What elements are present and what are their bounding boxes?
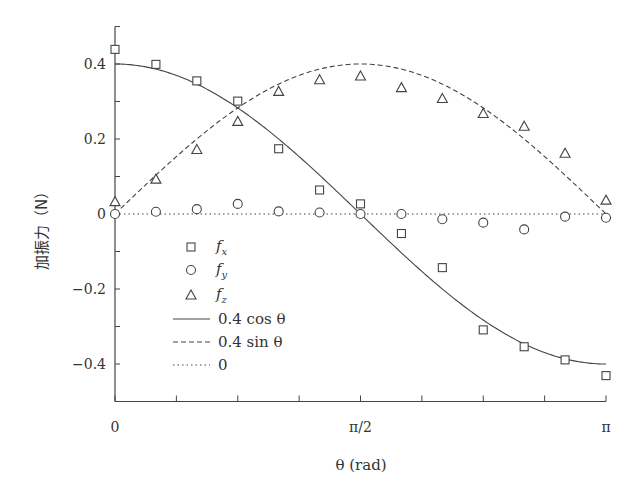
- legend-marker-triangle: [186, 290, 196, 299]
- data-point-square: [193, 77, 201, 85]
- y-tick-label: −0.4: [72, 356, 106, 372]
- data-point-square: [111, 45, 119, 53]
- data-point-triangle: [478, 109, 488, 118]
- y-tick-label: −0.2: [72, 281, 106, 297]
- data-point-circle: [233, 199, 242, 208]
- chart: 0.40.20−0.2−0.40π/2π fxfyfz0.4 cos θ0.4 …: [0, 0, 643, 503]
- data-point-square: [152, 60, 160, 68]
- data-point-square: [479, 326, 487, 334]
- legend-marker-square: [187, 243, 195, 251]
- axes: 0.40.20−0.2−0.40π/2π: [72, 27, 611, 435]
- data-point-square: [234, 97, 242, 105]
- data-point-circle: [315, 208, 324, 217]
- x-tick-label: π: [601, 419, 610, 435]
- data-point-triangle: [192, 145, 202, 154]
- y-tick-label: 0.2: [84, 131, 106, 147]
- data-point-square: [275, 145, 283, 153]
- data-point-triangle: [396, 83, 406, 92]
- legend-marker-circle: [187, 266, 196, 275]
- data-point-triangle: [315, 75, 325, 84]
- data-point-circle: [356, 210, 365, 219]
- data-point-square: [520, 343, 528, 351]
- legend-label: fx: [215, 237, 228, 257]
- data-point-square: [357, 200, 365, 208]
- x-tick-label: π/2: [349, 419, 372, 435]
- data-point-circle: [111, 210, 120, 219]
- data-point-triangle: [356, 71, 366, 80]
- data-point-square: [438, 264, 446, 272]
- legend-label: 0: [218, 356, 228, 374]
- data-point-triangle: [274, 86, 284, 95]
- x-axis-title: θ (rad): [335, 456, 386, 474]
- data-point-square: [397, 230, 405, 238]
- y-tick-label: 0.4: [84, 56, 106, 72]
- data-point-circle: [397, 210, 406, 219]
- legend: fxfyfz0.4 cos θ0.4 sin θ0: [173, 237, 286, 374]
- data-point-circle: [479, 218, 488, 227]
- data-point-circle: [602, 213, 611, 222]
- data-point-square: [561, 356, 569, 364]
- legend-label: 0.4 sin θ: [218, 333, 283, 351]
- curve-dashed: [115, 64, 606, 214]
- legend-label: fy: [215, 260, 228, 280]
- data-point-circle: [520, 225, 529, 234]
- y-tick-label: 0: [97, 206, 106, 222]
- y-axis-title: 加振力（N）: [33, 184, 51, 270]
- data-point-triangle: [560, 148, 570, 157]
- data-point-circle: [561, 212, 570, 221]
- data-point-triangle: [233, 116, 243, 125]
- data-point-triangle: [519, 121, 529, 130]
- x-tick-label: 0: [111, 419, 120, 435]
- legend-label: fz: [215, 285, 228, 305]
- data-points: [110, 45, 611, 379]
- data-point-circle: [274, 207, 283, 216]
- data-point-circle: [151, 207, 160, 216]
- legend-label: 0.4 cos θ: [218, 310, 286, 328]
- data-point-triangle: [110, 197, 120, 206]
- data-point-square: [316, 186, 324, 194]
- data-point-square: [602, 372, 610, 380]
- data-point-circle: [438, 215, 447, 224]
- data-point-triangle: [601, 195, 611, 204]
- data-point-triangle: [437, 94, 447, 103]
- data-point-circle: [192, 205, 201, 214]
